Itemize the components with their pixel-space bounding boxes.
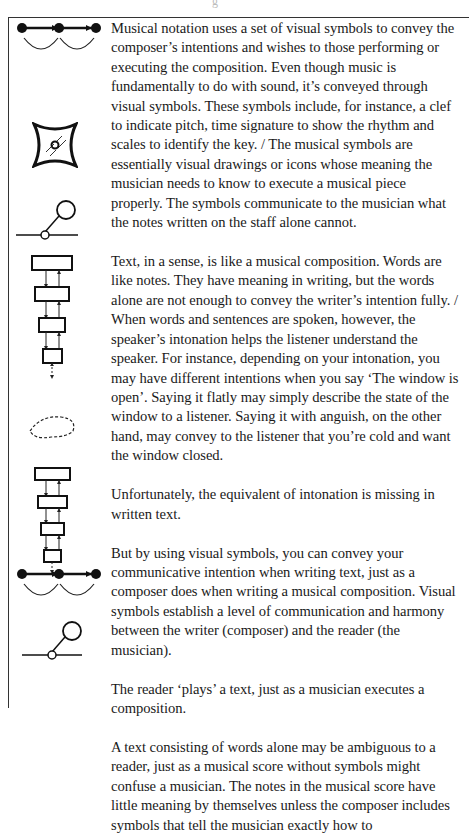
concave-square-icon bbox=[32, 122, 78, 168]
stacked-boxes-icon bbox=[31, 254, 75, 380]
paragraph-visual-symbols: But by using visual symbols, you can con… bbox=[111, 544, 461, 660]
paragraph-musical-notation: Musical notation uses a set of visual sy… bbox=[111, 19, 461, 232]
paragraph-reader-plays: The reader ‘plays’ a text, just as a mus… bbox=[111, 680, 461, 719]
stacked-boxes-icon bbox=[34, 466, 74, 574]
lollipop-node-icon bbox=[16, 199, 82, 241]
paragraph-text-as-composition: Text, in a sense, is like a musical comp… bbox=[111, 252, 461, 465]
lollipop-node-icon bbox=[22, 620, 88, 662]
cut-off-heading-fragment: g bbox=[212, 0, 218, 9]
paragraph-intonation-missing: Unfortunately, the equivalent of intonat… bbox=[111, 485, 461, 524]
dashed-blob-icon bbox=[27, 413, 79, 443]
linked-nodes-icon bbox=[16, 20, 102, 54]
paragraph-ambiguous-text: A text consisting of words alone may be … bbox=[111, 738, 461, 835]
body-text: Musical notation uses a set of visual sy… bbox=[111, 19, 461, 837]
linked-nodes-icon bbox=[16, 566, 102, 600]
